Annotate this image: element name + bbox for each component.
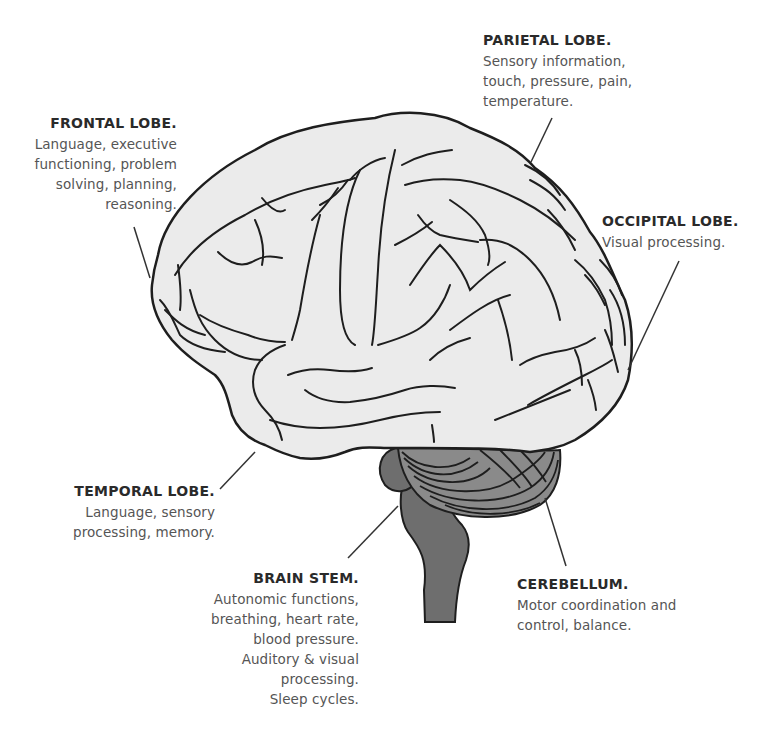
label-description-line: Language, sensory <box>73 502 215 522</box>
label-description-line: processing, memory. <box>73 522 215 542</box>
label-occipital-lobe: OCCIPITAL LOBE. Visual processing. <box>602 211 739 252</box>
label-description-line: breathing, heart rate, <box>211 609 359 629</box>
label-description-line: Motor coordination and <box>517 595 676 615</box>
label-brain-stem: BRAIN STEM. Autonomic functions, breathi… <box>211 568 359 709</box>
label-description-line: Language, executive <box>35 134 177 154</box>
leader-line-cerebellum <box>545 498 566 566</box>
leader-line-occipital <box>628 261 679 370</box>
label-cerebellum: CEREBELLUM. Motor coordination and contr… <box>517 574 676 635</box>
label-description-line: functioning, problem <box>35 154 177 174</box>
label-description-line: temperature. <box>483 91 632 111</box>
label-title: BRAIN STEM. <box>211 568 359 589</box>
label-description-line: Auditory & visual <box>211 649 359 669</box>
label-description-line: processing. <box>211 669 359 689</box>
label-description-line: solving, planning, <box>35 174 177 194</box>
leader-line-temporal <box>220 452 255 489</box>
label-description-line: control, balance. <box>517 615 676 635</box>
label-title: FRONTAL LOBE. <box>35 113 177 134</box>
label-description-line: touch, pressure, pain, <box>483 71 632 91</box>
leader-line-frontal <box>134 227 150 278</box>
label-parietal-lobe: PARIETAL LOBE. Sensory information, touc… <box>483 30 632 111</box>
leader-line-parietal <box>531 118 552 162</box>
label-title: OCCIPITAL LOBE. <box>602 211 739 232</box>
label-temporal-lobe: TEMPORAL LOBE. Language, sensory process… <box>73 481 215 542</box>
label-description-line: Visual processing. <box>602 232 739 252</box>
label-frontal-lobe: FRONTAL LOBE. Language, executive functi… <box>35 113 177 214</box>
label-description-line: Autonomic functions, <box>211 589 359 609</box>
label-description-line: Sleep cycles. <box>211 689 359 709</box>
label-title: PARIETAL LOBE. <box>483 30 632 51</box>
label-title: CEREBELLUM. <box>517 574 676 595</box>
leader-line-brainstem <box>348 506 398 558</box>
label-title: TEMPORAL LOBE. <box>73 481 215 502</box>
label-description-line: blood pressure. <box>211 629 359 649</box>
label-description-line: reasoning. <box>35 194 177 214</box>
label-description-line: Sensory information, <box>483 51 632 71</box>
brain-diagram: PARIETAL LOBE. Sensory information, touc… <box>0 0 761 736</box>
